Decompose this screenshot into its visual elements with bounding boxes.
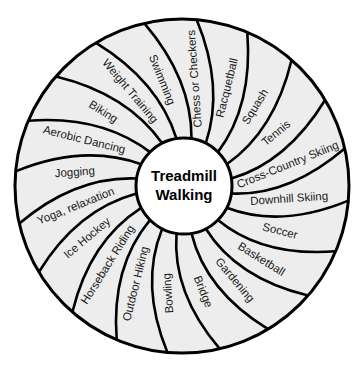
activity-wheel-diagram: SwimmingChess or CheckersRacquetballSqua…	[0, 0, 364, 372]
center-label-line1: Treadmill	[151, 167, 217, 184]
center-label-line2: Walking	[156, 186, 213, 203]
